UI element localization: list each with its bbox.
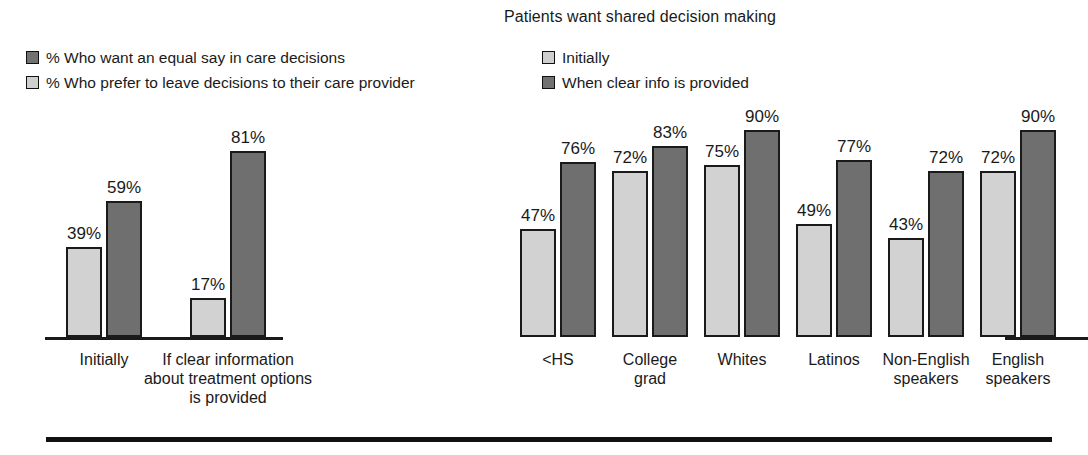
chart-panel-left: 39%59%17%81% InitiallyIf clear informati…: [0, 0, 330, 455]
bar-value-label: 39%: [67, 225, 101, 242]
x-axis-line-left: [45, 337, 283, 340]
bar: [652, 146, 688, 337]
bar: [106, 201, 142, 337]
bar-value-label: 43%: [889, 216, 923, 233]
bar-value-label: 77%: [837, 138, 871, 155]
category-label: If clear information about treatment opt…: [128, 350, 328, 407]
bar-value-label: 90%: [1021, 108, 1055, 125]
bar: [66, 247, 102, 337]
bar: [744, 130, 780, 337]
bar-value-label: 72%: [981, 149, 1015, 166]
bar-value-label: 83%: [653, 124, 687, 141]
bar-value-label: 76%: [561, 140, 595, 157]
bar: [980, 171, 1016, 337]
bar-value-label: 47%: [521, 207, 555, 224]
bar: [796, 224, 832, 337]
bar-value-label: 59%: [107, 179, 141, 196]
bar-value-label: 81%: [231, 129, 265, 146]
bar: [836, 160, 872, 337]
bar-value-label: 17%: [191, 276, 225, 293]
bar: [190, 298, 226, 337]
bar-value-label: 90%: [745, 108, 779, 125]
chart-panel-right: 47%76%72%83%75%90%49%77%43%72%72%90% <HS…: [500, 0, 1088, 455]
bar-value-label: 75%: [705, 143, 739, 160]
bar: [612, 171, 648, 337]
x-axis-line-right: [1005, 337, 1088, 340]
bar: [704, 165, 740, 338]
bar: [230, 151, 266, 337]
category-label: English speakers: [918, 350, 1088, 388]
bar: [1020, 130, 1056, 337]
bar-value-label: 72%: [613, 149, 647, 166]
bar-value-label: 49%: [797, 202, 831, 219]
bar: [888, 238, 924, 337]
bar: [520, 229, 556, 337]
bar: [560, 162, 596, 337]
bottom-divider: [46, 437, 1052, 442]
bar-value-label: 72%: [929, 149, 963, 166]
bar: [928, 171, 964, 337]
